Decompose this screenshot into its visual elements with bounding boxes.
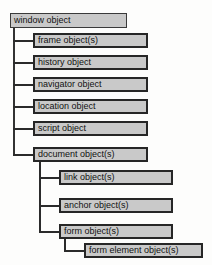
- connector-document-to-anchor: [39, 205, 60, 207]
- connector-document-to-form: [39, 231, 60, 233]
- node-window-object[interactable]: window object: [10, 13, 127, 28]
- object-hierarchy-diagram: window object frame object(s) history ob…: [0, 0, 212, 265]
- node-label-window-object: window object: [14, 16, 71, 25]
- node-history-object[interactable]: history object: [33, 55, 148, 70]
- node-location-object[interactable]: location object: [33, 99, 148, 114]
- connector-window-to-history: [13, 62, 34, 64]
- node-label-link-object: link object(s): [64, 173, 115, 182]
- node-label-navigator-object: navigator object: [38, 80, 102, 89]
- connector-document-trunk: [39, 161, 41, 233]
- node-frame-object[interactable]: frame object(s): [33, 33, 148, 48]
- connector-window-trunk: [13, 28, 15, 156]
- node-form-element-object[interactable]: form element object(s): [84, 243, 203, 258]
- node-script-object[interactable]: script object: [33, 121, 148, 136]
- connector-window-to-frame: [13, 40, 34, 42]
- node-label-history-object: history object: [38, 58, 91, 67]
- node-anchor-object[interactable]: anchor object(s): [59, 198, 173, 213]
- connector-window-to-document: [13, 154, 34, 156]
- connector-document-to-link: [39, 177, 60, 179]
- connector-window-to-script: [13, 128, 34, 130]
- node-label-location-object: location object: [38, 102, 96, 111]
- node-label-anchor-object: anchor object(s): [64, 201, 129, 210]
- node-document-object[interactable]: document object(s): [33, 147, 148, 162]
- connector-window-to-navigator: [13, 84, 34, 86]
- node-label-frame-object: frame object(s): [38, 36, 98, 45]
- node-form-object[interactable]: form object(s): [59, 224, 173, 239]
- node-label-script-object: script object: [38, 124, 86, 133]
- node-label-document-object: document object(s): [38, 150, 115, 159]
- connector-form-to-form-element: [64, 250, 85, 252]
- node-link-object[interactable]: link object(s): [59, 170, 173, 185]
- node-label-form-element-object: form element object(s): [89, 246, 179, 255]
- node-navigator-object[interactable]: navigator object: [33, 77, 148, 92]
- connector-window-to-location: [13, 106, 34, 108]
- node-label-form-object: form object(s): [64, 227, 119, 236]
